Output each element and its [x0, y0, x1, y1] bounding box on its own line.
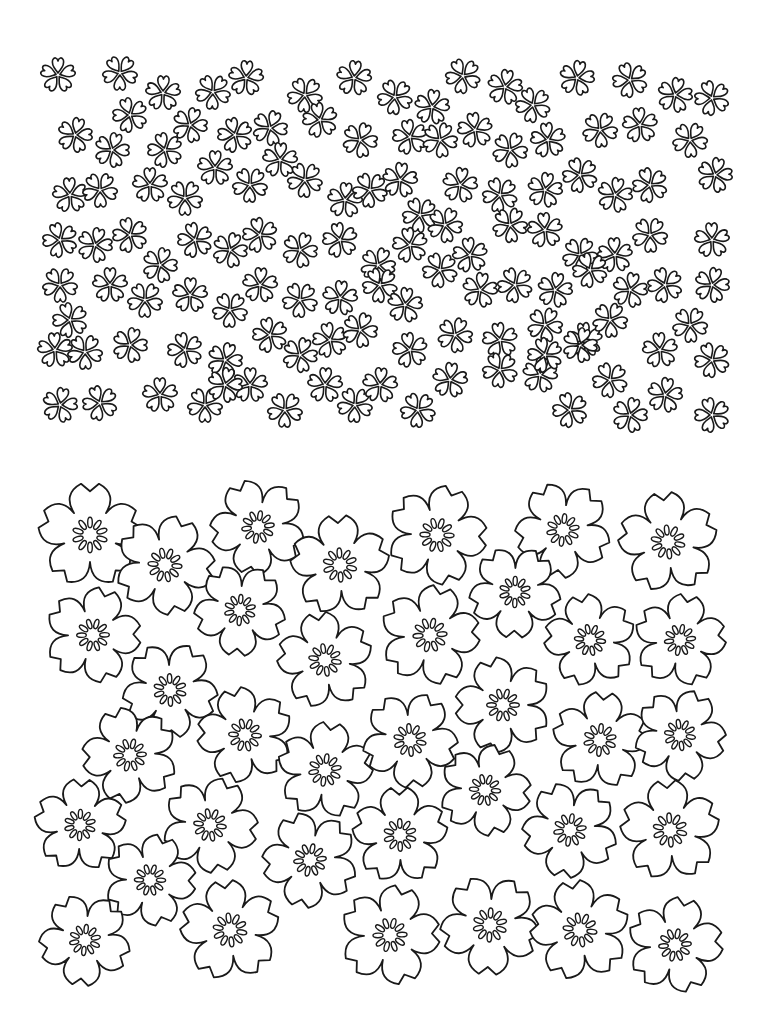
small-blossom	[690, 217, 734, 263]
small-blossom	[35, 215, 84, 264]
small-blossom	[197, 151, 234, 186]
small-blossom	[617, 102, 663, 149]
small-blossom	[524, 170, 566, 210]
large-cherry-blossom	[549, 689, 652, 788]
large-cherry-blossom	[330, 874, 451, 992]
small-blossom	[108, 323, 153, 367]
small-blossom	[35, 261, 84, 310]
small-blossom	[138, 372, 182, 417]
small-blossom	[690, 264, 734, 307]
small-blossom	[39, 384, 82, 425]
small-blossom	[416, 117, 463, 164]
small-blossom	[227, 60, 265, 97]
small-blossom	[640, 260, 689, 310]
small-blossom-field	[33, 49, 737, 440]
small-blossom	[459, 270, 500, 310]
small-blossom	[171, 216, 220, 265]
small-blossom	[687, 73, 736, 123]
small-blossom	[73, 223, 117, 266]
small-blossom	[316, 216, 364, 264]
small-blossom	[106, 210, 155, 259]
small-blossom	[545, 385, 594, 434]
small-blossom	[486, 126, 534, 173]
small-blossom	[693, 154, 737, 196]
large-cherry-blossom-field	[23, 460, 741, 1001]
small-blossom	[576, 106, 624, 154]
small-blossom	[653, 74, 696, 116]
small-blossom	[275, 275, 325, 324]
small-blossom	[92, 268, 128, 302]
small-blossom	[277, 227, 324, 273]
small-blossom	[320, 279, 359, 317]
small-blossom	[556, 58, 598, 99]
small-blossom	[171, 277, 208, 312]
large-cherry-blossom	[627, 587, 733, 690]
small-blossom	[644, 375, 686, 415]
large-cherry-blossom	[610, 766, 735, 893]
small-blossom	[144, 75, 181, 110]
small-blossom	[90, 128, 135, 172]
small-blossom	[306, 367, 344, 403]
small-blossom	[585, 355, 635, 405]
large-cherry-blossom	[344, 775, 461, 894]
small-blossom	[440, 165, 481, 204]
small-blossom	[438, 51, 488, 101]
small-blossom	[334, 59, 373, 97]
large-cherry-blossom	[517, 863, 647, 995]
small-blossom	[241, 267, 279, 304]
small-blossom	[594, 174, 637, 215]
large-cherry-blossom	[272, 717, 379, 820]
small-blossom	[280, 155, 330, 204]
small-blossom	[40, 58, 76, 92]
small-blossom	[430, 361, 470, 399]
small-blossom	[53, 114, 97, 157]
small-blossom	[260, 385, 309, 434]
coloring-page	[0, 0, 770, 1033]
small-blossom	[452, 106, 499, 154]
small-blossom	[95, 49, 144, 98]
small-blossom	[160, 174, 209, 223]
small-blossom	[525, 116, 571, 163]
small-blossom	[386, 326, 433, 374]
small-blossom	[687, 335, 737, 385]
small-blossom	[337, 117, 384, 163]
small-blossom	[128, 162, 172, 207]
small-blossom	[522, 207, 568, 254]
small-blossom	[605, 55, 654, 105]
flower-pattern-illustration	[0, 0, 770, 1033]
small-blossom	[412, 88, 452, 127]
small-blossom	[490, 260, 540, 310]
small-blossom	[393, 385, 443, 435]
large-cherry-blossom	[607, 477, 733, 606]
small-blossom	[688, 390, 737, 439]
large-cherry-blossom	[280, 501, 404, 627]
small-blossom	[370, 72, 420, 122]
small-blossom	[75, 378, 124, 428]
small-blossom	[608, 393, 652, 436]
small-blossom	[137, 243, 182, 287]
small-blossom	[666, 116, 715, 164]
small-blossom	[431, 312, 478, 359]
small-blossom	[625, 160, 674, 210]
small-blossom	[161, 325, 210, 374]
large-cherry-blossom	[619, 888, 732, 998]
small-blossom	[534, 270, 576, 311]
